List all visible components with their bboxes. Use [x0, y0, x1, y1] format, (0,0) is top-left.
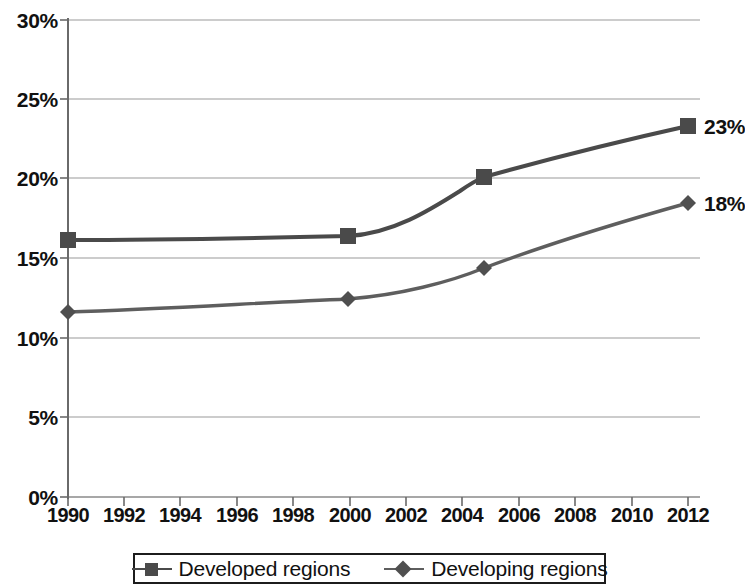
x-axis-tick-label: 1996: [209, 505, 265, 525]
data-label-developing-2012: 18%: [704, 193, 745, 214]
x-axis-tick-label: 2006: [491, 505, 547, 525]
y-axis-ticks: [60, 20, 68, 497]
x-axis-tick-label: 1992: [96, 505, 152, 525]
legend-entry-developing-regions[interactable]: Developing regions: [384, 558, 607, 579]
x-axis-tick-label: 2012: [660, 505, 716, 525]
diamond-marker-icon: [384, 561, 424, 577]
legend-label-developing-regions: Developing regions: [431, 558, 607, 579]
legend-label-developed-regions: Developed regions: [179, 558, 351, 579]
y-axis-tick-label: 10%: [0, 328, 58, 349]
data-label-developed-2012: 23%: [704, 116, 745, 137]
x-axis-tick-label: 2002: [378, 505, 434, 525]
x-axis-tick-label: 2000: [322, 505, 378, 525]
legend-entry-developed-regions[interactable]: Developed regions: [132, 558, 351, 579]
x-axis-tick-label: 2010: [604, 505, 660, 525]
x-axis-tick-label: 2004: [434, 505, 490, 525]
x-axis-tick-label: 2008: [547, 505, 603, 525]
y-axis-tick-label: 25%: [0, 89, 58, 110]
chart-legend: Developed regions Developing regions: [133, 553, 606, 584]
x-axis-tick-label: 1994: [152, 505, 208, 525]
x-axis-tick-label: 1998: [265, 505, 321, 525]
y-axis-tick-label: 20%: [0, 168, 58, 189]
y-axis-tick-label: 5%: [0, 407, 58, 428]
y-axis-tick-label: 15%: [0, 248, 58, 269]
x-axis-tick-label: 1990: [40, 505, 96, 525]
square-marker-icon: [132, 561, 172, 577]
gridlines: [68, 20, 700, 497]
y-axis-tick-label: 30%: [0, 10, 58, 31]
